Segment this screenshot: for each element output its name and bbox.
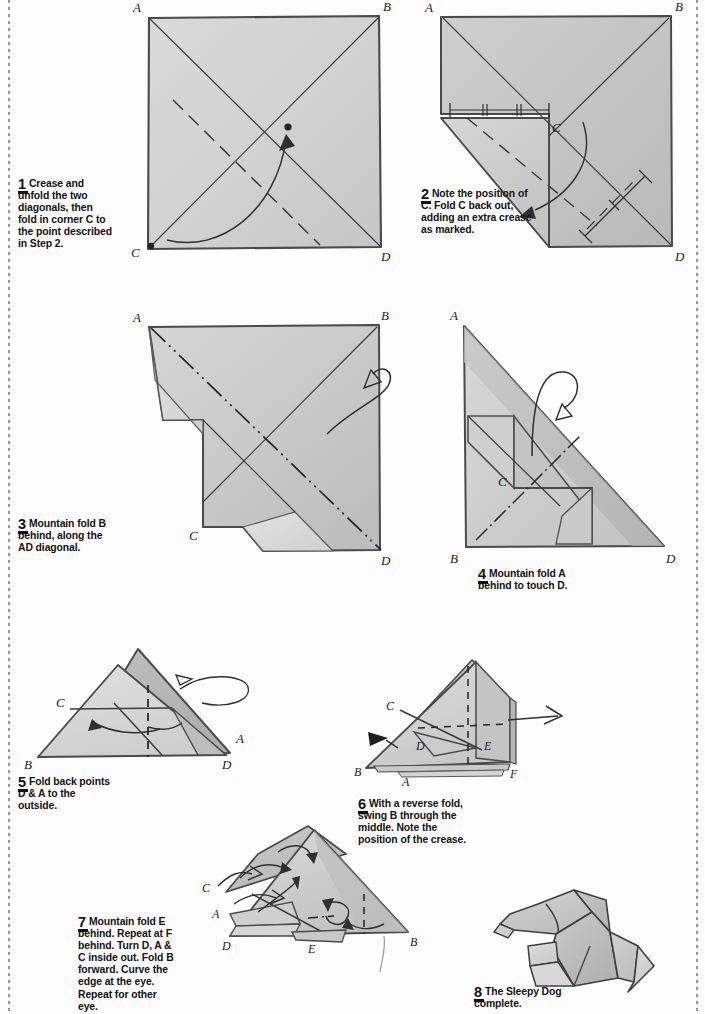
label-D: D (221, 939, 231, 953)
label-D: D (221, 757, 232, 772)
reference-point-dot (284, 123, 291, 130)
push-arrow-head (368, 732, 388, 746)
label-B: B (410, 935, 418, 949)
caption-step-2: 2 Note the position of C. Fold C back ou… (421, 188, 533, 236)
figure-step-7: C A D E B (196, 820, 431, 955)
caption-step-3: 3 Mountain fold B behind, along the AD d… (18, 518, 113, 554)
label-A: A (401, 775, 410, 789)
label-C: C (498, 474, 507, 489)
caption-step-5: 5 Fold back points D & A to the outside. (18, 776, 113, 812)
caption-step-1: 1 Crease and unfold the two diagonals, t… (18, 178, 113, 251)
figure-step-1: A B C D (145, 14, 385, 259)
flap-d (230, 924, 300, 936)
step-text: Fold back points D & A to the outside. (18, 776, 113, 812)
step-number: 5 (18, 776, 26, 788)
label-B: B (24, 757, 32, 772)
label-B: B (450, 551, 458, 566)
label-D: D (415, 739, 425, 753)
figure-step-5: C B D A (30, 645, 270, 770)
label-E: E (307, 942, 316, 956)
pullout-arrow-head (544, 706, 562, 724)
label-C: C (189, 528, 198, 543)
label-C: C (552, 120, 561, 135)
label-C: C (386, 699, 395, 713)
step-text: The Sleepy Dog complete. (474, 986, 594, 1010)
label-D: D (380, 249, 391, 264)
crease-horizontal-c (70, 708, 172, 709)
step-number: 6 (358, 798, 366, 810)
step-number: 3 (18, 518, 26, 530)
step-text: Mountain fold A behind to touch D. (478, 568, 583, 592)
label-B: B (675, 0, 683, 14)
label-A: A (132, 310, 141, 325)
label-C: C (202, 881, 211, 895)
caption-step-7: 7 Mountain fold E behind. Repeat at F be… (78, 916, 178, 1013)
step-text: Crease and unfold the two diagonals, the… (18, 178, 113, 251)
label-B: B (383, 0, 391, 14)
figure-step-8 (478, 886, 678, 998)
label-A: A (424, 0, 433, 15)
label-D: D (674, 249, 685, 264)
step-number: 4 (478, 568, 486, 580)
paper-right-block (476, 662, 510, 762)
step-number: 2 (421, 188, 429, 200)
label-A: A (235, 731, 244, 746)
paper-edge-stack (510, 698, 516, 764)
label-C: C (131, 245, 140, 260)
label-D: D (665, 551, 676, 566)
label-B: B (381, 308, 389, 323)
page-margin-rule-right (696, 0, 698, 1014)
label-A: A (132, 0, 141, 15)
label-A: A (211, 907, 220, 921)
step-text: Mountain fold E behind. Repeat at F behi… (78, 916, 178, 1013)
figure-step-4: A B C D (452, 320, 687, 560)
pointer-line-b (380, 936, 385, 972)
label-D: D (380, 553, 391, 568)
step-number: 8 (474, 986, 482, 998)
caption-step-8: 8 The Sleepy Dog complete. (474, 986, 594, 1010)
step-text: Mountain fold B behind, along the AD dia… (18, 518, 113, 554)
fold-behind-arrow-head (556, 404, 572, 420)
label-B: B (354, 765, 362, 779)
fold-behind-loop (180, 677, 248, 705)
flap-e (292, 930, 346, 942)
step-number: 7 (78, 916, 86, 928)
label-F: F (509, 767, 518, 781)
figure-step-6: C B A D E F (358, 658, 573, 780)
page-margin-rule-left (8, 0, 10, 1014)
label-A: A (449, 308, 458, 323)
figure-step-3: A B C D (145, 322, 390, 557)
label-C: C (56, 695, 65, 710)
corner-c-dot (148, 243, 154, 249)
step-number: 1 (18, 178, 26, 190)
label-E: E (483, 739, 492, 753)
caption-step-4: 4 Mountain fold A behind to touch D. (478, 568, 583, 592)
step-text: Note the position of C. Fold C back out,… (421, 188, 533, 236)
